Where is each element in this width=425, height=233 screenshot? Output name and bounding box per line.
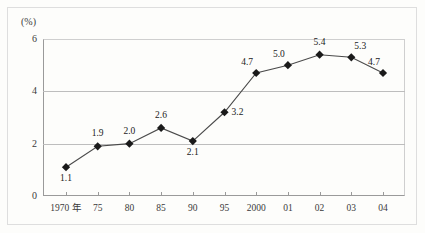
x-tick-label-9: 03: [347, 204, 357, 214]
data-label-2: 2.0: [123, 127, 135, 137]
x-tick-label-1: 75: [93, 204, 103, 214]
x-tick-label-3: 85: [156, 204, 166, 214]
data-point-marker-8: [316, 51, 324, 59]
y-tick-label-2: 2: [13, 139, 37, 149]
data-point-marker-7: [284, 61, 292, 69]
data-point-marker-9: [347, 53, 355, 61]
x-tick-label-5: 95: [220, 204, 230, 214]
x-tick-label-2: 80: [125, 204, 135, 214]
data-label-1: 1.9: [92, 129, 104, 139]
data-point-marker-1: [94, 142, 102, 150]
x-tick-label-6: 2000: [247, 204, 266, 214]
y-tick-label-6: 6: [13, 34, 37, 44]
x-tick-label-8: 02: [315, 204, 325, 214]
data-label-5: 3.2: [232, 108, 244, 118]
data-point-marker-10: [379, 69, 387, 77]
data-label-6: 4.7: [241, 58, 253, 68]
x-tick-label-7: 01: [283, 204, 293, 214]
line-series: [43, 39, 405, 196]
data-label-4: 2.1: [187, 148, 199, 158]
data-point-marker-3: [157, 124, 165, 132]
data-label-9: 5.3: [354, 42, 366, 52]
y-axis-unit-label: (%): [21, 17, 36, 27]
data-label-10: 4.7: [368, 58, 380, 68]
x-tick-label-0: 1970 年: [50, 204, 81, 214]
x-tick-label-10: 04: [378, 204, 388, 214]
data-point-marker-0: [62, 163, 70, 171]
y-tick-label-4: 4: [13, 86, 37, 96]
chart-screenshot: (%) 0246 1970 年7580859095200001020304 1.…: [0, 0, 425, 233]
x-tick-label-4: 90: [188, 204, 198, 214]
plot-area: 0246 1970 年7580859095200001020304 1.11.9…: [43, 39, 405, 196]
y-tick-label-0: 0: [13, 191, 37, 201]
data-label-7: 5.0: [273, 50, 285, 60]
data-point-marker-2: [125, 140, 133, 148]
data-label-0: 1.1: [60, 174, 72, 184]
data-label-8: 5.4: [314, 38, 326, 48]
data-label-3: 2.6: [155, 111, 167, 121]
